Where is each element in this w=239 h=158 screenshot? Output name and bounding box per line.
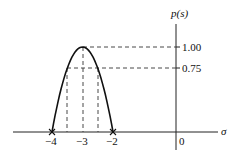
x-tick-label-neg2: −2 [106, 135, 118, 147]
guide-lines [67, 47, 176, 132]
y-tick-label-1-00: 1.00 [182, 41, 202, 53]
x-tick-label-neg3: −3 [76, 135, 88, 147]
y-tick-label-0-75: 0.75 [182, 62, 202, 74]
x-tick-label-0: 0 [179, 135, 185, 147]
x-tick-label-neg4: −4 [45, 135, 57, 147]
chart: p(s) 1.00 0.75 σ −4 −3 −2 0 [0, 0, 239, 158]
y-axis-label: p(s) [170, 7, 188, 20]
x-axis-label: σ [221, 125, 227, 137]
parabola-curve [52, 47, 113, 132]
